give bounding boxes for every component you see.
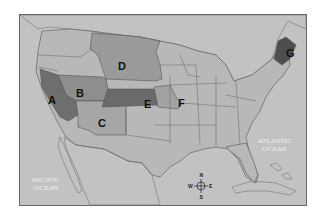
region-label-b: B — [76, 87, 84, 99]
region-label-f: F — [178, 97, 185, 109]
atlantic-ocean-label-line1: ATLANTIC — [257, 137, 292, 145]
map-frame: A B C D E F G PACIFIC OCEAN ATLANTIC OCE… — [19, 14, 307, 206]
pacific-ocean-label-line1: PACIFIC — [31, 176, 60, 184]
region-label-c: C — [98, 117, 106, 129]
region-label-e: E — [144, 98, 151, 110]
region-label-g: G — [286, 47, 295, 59]
compass-w: W — [188, 183, 193, 189]
compass-n: N — [200, 172, 204, 178]
atlantic-ocean-label-line2: OCEAN — [262, 145, 286, 153]
us-map: A B C D E F G PACIFIC OCEAN ATLANTIC OCE… — [20, 15, 306, 205]
region-label-a: A — [48, 94, 56, 106]
region-label-d: D — [118, 60, 126, 72]
pacific-ocean-label-line2: OCEAN — [34, 184, 58, 192]
